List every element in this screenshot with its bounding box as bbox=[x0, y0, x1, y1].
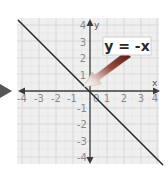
x-tick-label: 4 bbox=[152, 93, 158, 104]
y-tick-label: 1 bbox=[80, 70, 86, 81]
side-pointer-arrow-icon bbox=[0, 84, 12, 98]
y-tick-label: 4 bbox=[80, 20, 86, 31]
x-tick-label: 2 bbox=[121, 93, 127, 104]
equation-label: y = -x bbox=[103, 37, 151, 55]
x-tick-label: 1 bbox=[104, 93, 110, 104]
y-tick-label: -2 bbox=[77, 119, 87, 130]
y-axis-label: y bbox=[94, 20, 100, 30]
graph-y-equals-neg-x: y x -4 -3 -2 -1 1 2 3 4 0 4 3 2 1 -1 -2 … bbox=[0, 0, 168, 171]
x-tick-label: -1 bbox=[67, 93, 77, 104]
y-tick-label: -3 bbox=[77, 136, 87, 147]
x-tick-label: -2 bbox=[51, 93, 61, 104]
x-tick-label: -3 bbox=[34, 93, 44, 104]
x-tick-label: 3 bbox=[138, 93, 144, 104]
y-tick-label: -1 bbox=[77, 103, 87, 114]
x-tick-label: -4 bbox=[17, 93, 27, 104]
y-tick-label: 2 bbox=[80, 53, 86, 64]
equation-text: y = -x bbox=[104, 38, 149, 54]
y-tick-label: 3 bbox=[80, 37, 86, 48]
x-axis-label: x bbox=[152, 78, 158, 88]
y-tick-label: -4 bbox=[77, 152, 87, 163]
